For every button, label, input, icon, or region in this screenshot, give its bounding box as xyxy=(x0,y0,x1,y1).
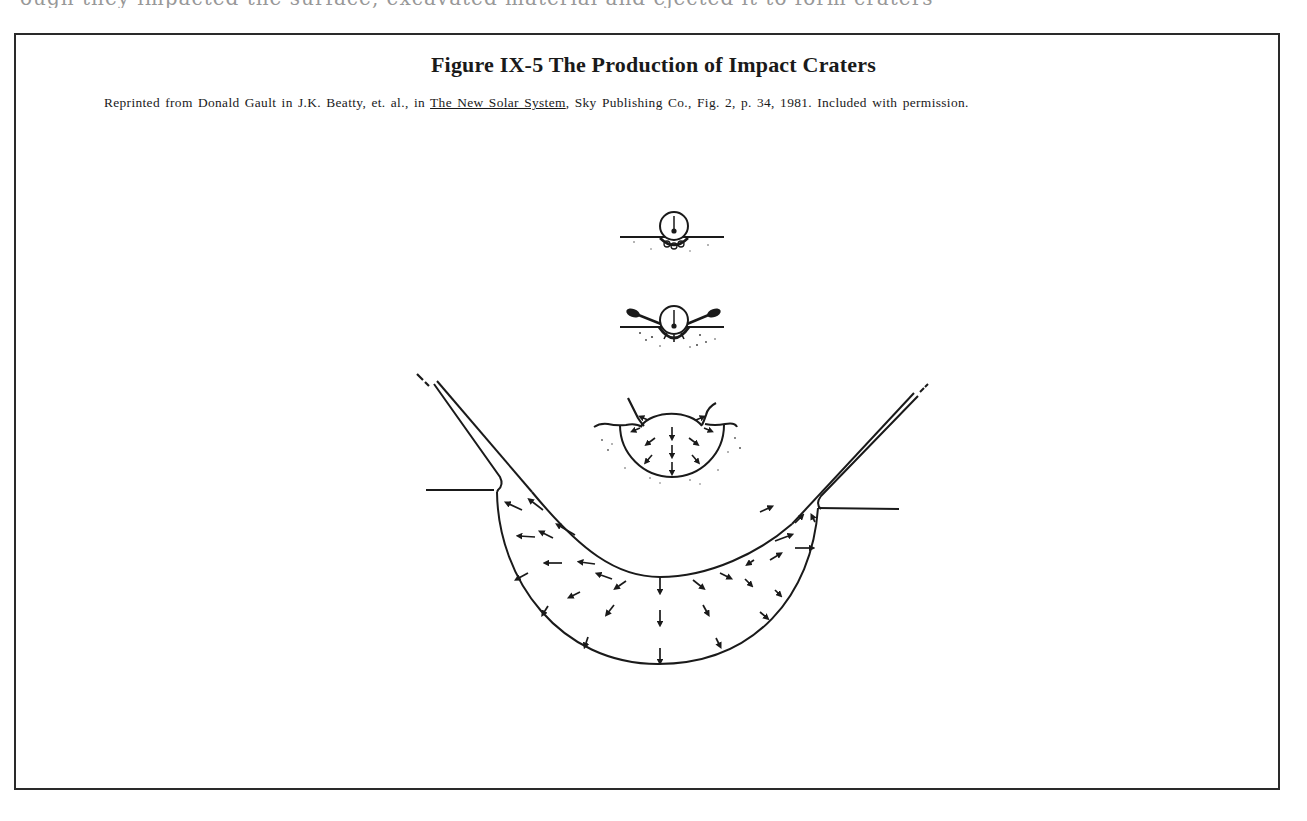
stage-3-excavation xyxy=(594,398,741,485)
stage-2-penetration xyxy=(620,306,724,348)
stage-1-contact xyxy=(620,212,724,252)
impact-crater-illustration xyxy=(0,0,1307,821)
stage-4-transient-crater xyxy=(417,374,928,664)
